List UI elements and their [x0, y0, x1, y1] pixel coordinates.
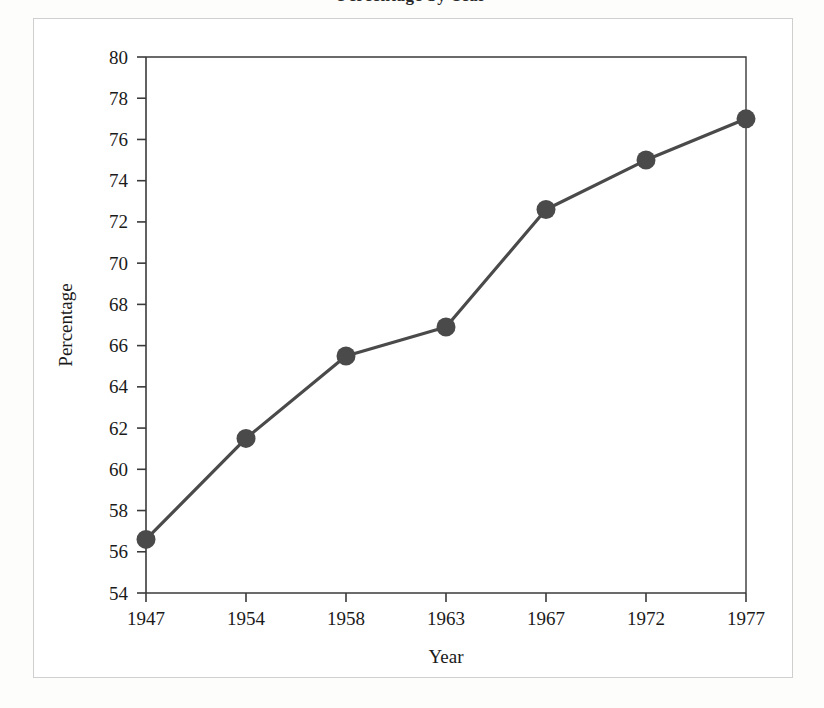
y-axis-title: Percentage	[55, 283, 76, 366]
y-tick-label: 54	[109, 583, 129, 604]
y-tick-label: 70	[109, 253, 128, 274]
x-axis-ticks: 1947195419581963196719721977	[127, 593, 765, 629]
data-point-marker	[137, 530, 156, 549]
y-tick-label: 62	[109, 418, 128, 439]
y-tick-label: 60	[109, 459, 128, 480]
x-tick-label: 1958	[327, 608, 365, 629]
cut-off-caption: Percentage by Year	[0, 0, 824, 14]
x-axis-title: Year	[428, 646, 464, 667]
x-tick-label: 1967	[527, 608, 565, 629]
y-axis-ticks: 5456586062646668707274767880	[109, 47, 146, 604]
figure-frame: 5456586062646668707274767880 19471954195…	[33, 18, 793, 678]
data-point-marker	[337, 346, 356, 365]
y-tick-label: 56	[109, 541, 128, 562]
data-point-marker	[237, 429, 256, 448]
caption-text: Percentage by Year	[338, 0, 487, 4]
data-point-marker	[737, 109, 756, 128]
line-chart: 5456586062646668707274767880 19471954195…	[34, 19, 794, 679]
y-tick-label: 72	[109, 211, 128, 232]
data-point-marker	[637, 151, 656, 170]
x-tick-label: 1963	[427, 608, 465, 629]
x-tick-label: 1977	[727, 608, 765, 629]
series-markers	[137, 109, 756, 549]
y-tick-label: 66	[109, 335, 128, 356]
x-tick-label: 1954	[227, 608, 266, 629]
y-tick-label: 80	[109, 47, 128, 68]
y-tick-label: 68	[109, 294, 128, 315]
y-tick-label: 74	[109, 170, 129, 191]
y-tick-label: 78	[109, 88, 128, 109]
x-tick-label: 1947	[127, 608, 165, 629]
y-tick-label: 64	[109, 376, 129, 397]
data-point-marker	[437, 318, 456, 337]
y-tick-label: 58	[109, 500, 128, 521]
data-series-percentage	[137, 109, 756, 549]
x-tick-label: 1972	[627, 608, 665, 629]
data-point-marker	[537, 200, 556, 219]
scanned-page-surface: Percentage by Year 545658606264666870727…	[0, 0, 824, 708]
y-tick-label: 76	[109, 129, 128, 150]
chart-svg: 5456586062646668707274767880 19471954195…	[34, 19, 794, 679]
